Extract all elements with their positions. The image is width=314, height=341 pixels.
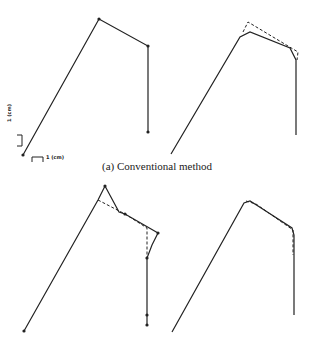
vertical-scale-bar bbox=[17, 135, 22, 146]
curve-b-left-dashed bbox=[98, 200, 147, 258]
node-dot bbox=[146, 44, 149, 47]
vertical-scale-label: 1 (cm) bbox=[6, 104, 12, 122]
curve-b-right-solid bbox=[172, 201, 294, 332]
curve-b-right-dashed bbox=[246, 201, 293, 255]
caption-conventional-method: (a) Conventional method bbox=[0, 160, 314, 172]
node-dot bbox=[145, 323, 148, 326]
node-dot bbox=[145, 313, 148, 316]
node-dot bbox=[21, 153, 24, 156]
node-dot bbox=[123, 212, 126, 215]
node-dot bbox=[156, 231, 159, 234]
node-dot bbox=[145, 256, 148, 259]
node-dot bbox=[146, 130, 149, 133]
node-dot bbox=[97, 17, 100, 20]
curve-a-right-solid bbox=[171, 32, 296, 154]
node-dot bbox=[22, 329, 25, 332]
curve-b-left-solid bbox=[24, 186, 158, 331]
curve-a-right-dashed bbox=[243, 22, 298, 60]
node-dot bbox=[103, 184, 106, 187]
horizontal-scale-label: 1 (cm) bbox=[46, 154, 64, 160]
curve-a-left bbox=[23, 19, 148, 155]
